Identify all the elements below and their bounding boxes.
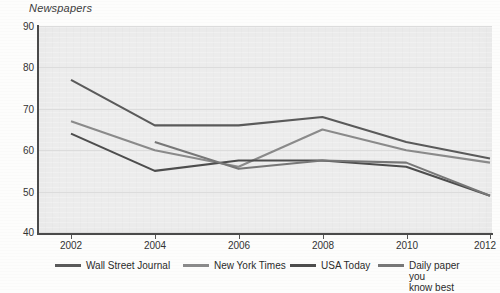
y-tick-label-90: 90 (10, 21, 34, 32)
x-tick-2006 (239, 235, 240, 239)
legend-item-new-york-times[interactable]: New York Times (183, 260, 286, 271)
y-axis (37, 25, 39, 235)
legend-item-usa-today[interactable]: USA Today (290, 260, 370, 271)
y-tick-label-40: 40 (10, 227, 34, 238)
legend-item-wall-street-journal[interactable]: Wall Street Journal (55, 260, 170, 271)
x-tick-label-2008: 2008 (312, 240, 334, 251)
x-tick-2004 (155, 235, 156, 239)
x-tick-2010 (407, 235, 408, 239)
series-line (71, 80, 490, 159)
y-tick-label-60: 60 (10, 145, 34, 156)
x-tick-2008 (323, 235, 324, 239)
x-tick-2012 (490, 235, 491, 239)
y-tick-label-80: 80 (10, 62, 34, 73)
legend-swatch-line-icon (55, 264, 81, 267)
legend-label: USA Today (321, 260, 370, 271)
legend-label-line2: know best (409, 282, 454, 293)
x-tick-label-2004: 2004 (144, 240, 166, 251)
legend-swatch-line-icon (183, 264, 209, 267)
chart-legend: Wall Street Journal New York Times USA T… (0, 258, 500, 288)
legend-label: New York Times (214, 260, 286, 271)
y-tick-label-70: 70 (10, 104, 34, 115)
legend-swatch-line-icon (378, 264, 404, 267)
legend-label-line1: Daily paper you (409, 260, 460, 282)
legend-label: Wall Street Journal (86, 260, 170, 271)
x-tick-label-2012: 2012 (474, 240, 496, 251)
plot-wrapper (38, 26, 492, 233)
x-axis (37, 233, 493, 235)
page-title: Newspapers (29, 2, 92, 14)
series-lines (38, 26, 492, 233)
x-tick-label-2002: 2002 (60, 240, 82, 251)
legend-label: Daily paper youknow best (409, 260, 475, 293)
series-line (155, 142, 490, 196)
x-tick-label-2010: 2010 (396, 240, 418, 251)
legend-item-daily-paper-you-know-best[interactable]: Daily paper youknow best (378, 260, 475, 293)
legend-swatch-line-icon (290, 264, 316, 267)
x-tick-2002 (71, 235, 72, 239)
x-tick-label-2006: 2006 (228, 240, 250, 251)
y-tick-label-50: 50 (10, 187, 34, 198)
